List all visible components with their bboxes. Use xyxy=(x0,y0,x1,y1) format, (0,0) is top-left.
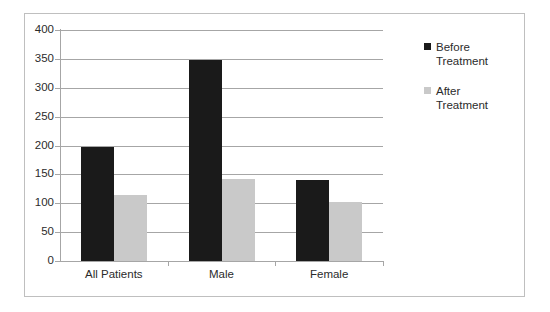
gridline xyxy=(60,117,383,118)
legend-label-after-line2: Treatment xyxy=(436,98,519,112)
x-tick-mark xyxy=(275,261,276,266)
y-tick-label: 300 xyxy=(14,82,54,93)
y-tick-mark xyxy=(55,146,60,147)
gridline xyxy=(60,30,383,31)
y-tick-label: 400 xyxy=(14,24,54,35)
legend-entry-before: Before Treatment xyxy=(424,40,519,68)
y-tick-label: 150 xyxy=(14,168,54,179)
bar-before xyxy=(189,60,222,261)
legend-label-before-line1: Before xyxy=(436,40,519,54)
y-tick-label: 350 xyxy=(14,53,54,64)
bar-chart: 400350300250200150100500 All PatientsMal… xyxy=(0,0,550,312)
y-tick-label: 0 xyxy=(14,255,54,266)
bar-after xyxy=(114,195,147,261)
y-tick-label-text: 100 xyxy=(20,197,54,208)
legend-entry-after: After Treatment xyxy=(424,84,519,112)
y-tick-label-text: 400 xyxy=(20,24,54,35)
y-tick-mark xyxy=(55,88,60,89)
y-tick-label-text: 250 xyxy=(20,111,54,122)
x-axis-label: Male xyxy=(168,268,276,281)
y-tick-mark xyxy=(55,174,60,175)
gridline xyxy=(60,88,383,89)
gridline xyxy=(60,59,383,60)
legend-label-before-line2: Treatment xyxy=(436,54,519,68)
y-tick-label-text: 300 xyxy=(20,82,54,93)
y-tick-label-text: 0 xyxy=(20,255,54,266)
x-tick-mark xyxy=(168,261,169,266)
bar-before xyxy=(81,147,114,261)
y-tick-label-text: 150 xyxy=(20,168,54,179)
y-tick-label: 50 xyxy=(14,226,54,237)
y-tick-label-text: 50 xyxy=(20,226,54,237)
y-tick-label-text: 200 xyxy=(20,140,54,151)
y-tick-mark xyxy=(55,232,60,233)
x-axis-label: All Patients xyxy=(60,268,168,281)
y-tick-mark xyxy=(55,30,60,31)
y-tick-mark xyxy=(55,117,60,118)
gridline xyxy=(60,261,383,262)
x-tick-mark xyxy=(383,261,384,266)
bar-before xyxy=(296,180,329,261)
legend-swatch-before-icon xyxy=(424,43,431,50)
chart-legend: Before Treatment After Treatment xyxy=(424,40,519,128)
y-tick-label-text: 350 xyxy=(20,53,54,64)
y-tick-label: 250 xyxy=(14,111,54,122)
legend-swatch-after-icon xyxy=(424,87,431,94)
y-tick-mark xyxy=(55,59,60,60)
y-tick-mark xyxy=(55,203,60,204)
bar-after xyxy=(222,179,255,261)
legend-label-after-line1: After xyxy=(436,84,519,98)
y-tick-mark xyxy=(55,261,60,262)
x-axis-label: Female xyxy=(275,268,383,281)
bar-after xyxy=(329,202,362,261)
y-tick-label: 200 xyxy=(14,140,54,151)
y-tick-label: 100 xyxy=(14,197,54,208)
